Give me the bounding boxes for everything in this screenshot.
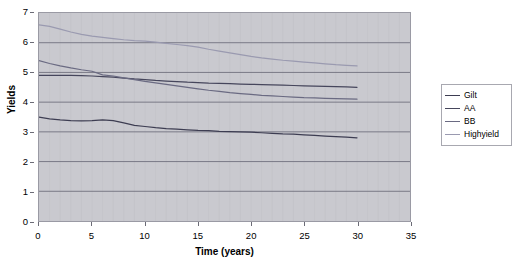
y-tick-mark bbox=[30, 102, 34, 103]
legend-line-swatch bbox=[445, 121, 460, 122]
legend-item-aa[interactable]: AA bbox=[445, 102, 508, 115]
x-tick-mark bbox=[251, 222, 252, 226]
x-tick-mark bbox=[304, 222, 305, 226]
legend-item-highyield[interactable]: Highyield bbox=[445, 128, 508, 141]
x-tick-label: 5 bbox=[89, 231, 94, 241]
plot-area bbox=[38, 12, 411, 222]
x-tick-mark bbox=[145, 222, 146, 226]
x-tick-label: 20 bbox=[246, 231, 257, 241]
y-tick-label: 1 bbox=[23, 187, 28, 197]
x-tick-mark bbox=[91, 222, 92, 226]
x-tick-label: 15 bbox=[193, 231, 204, 241]
x-tick-mark bbox=[198, 222, 199, 226]
y-tick-mark bbox=[30, 132, 34, 133]
y-tick-label: 2 bbox=[23, 157, 28, 167]
x-tick-label: 35 bbox=[406, 231, 417, 241]
legend-item-label: Highyield bbox=[464, 130, 499, 139]
plot-svg bbox=[39, 13, 410, 221]
y-tick-mark bbox=[30, 72, 34, 73]
legend-item-label: BB bbox=[464, 117, 475, 126]
legend-item-gilt[interactable]: Gilt bbox=[445, 89, 508, 102]
legend-line-swatch bbox=[445, 95, 460, 96]
legend-item-bb[interactable]: BB bbox=[445, 115, 508, 128]
y-tick-label: 7 bbox=[23, 7, 28, 17]
x-tick-mark bbox=[38, 222, 39, 226]
legend-line-swatch bbox=[445, 134, 460, 135]
yield-curve-chart: 76543210 Yields 05101520253035 Time (yea… bbox=[0, 0, 520, 273]
legend: GiltAABBHighyield bbox=[441, 84, 512, 146]
y-tick-label: 6 bbox=[23, 37, 28, 47]
y-axis-title: Yields bbox=[6, 70, 17, 130]
legend-line-swatch bbox=[445, 108, 460, 109]
y-tick-label: 5 bbox=[23, 67, 28, 77]
legend-item-label: Gilt bbox=[464, 91, 477, 100]
x-tick-label: 25 bbox=[299, 231, 310, 241]
y-tick-mark bbox=[30, 42, 34, 43]
x-axis-title: Time (years) bbox=[38, 246, 411, 257]
x-tick-mark bbox=[358, 222, 359, 226]
y-tick-mark bbox=[30, 192, 34, 193]
x-tick-mark bbox=[411, 222, 412, 226]
legend-item-label: AA bbox=[464, 104, 475, 113]
y-tick-label: 4 bbox=[23, 97, 28, 107]
y-tick-mark bbox=[30, 162, 34, 163]
x-tick-label: 0 bbox=[35, 231, 40, 241]
x-tick-label: 30 bbox=[352, 231, 363, 241]
y-tick-label: 3 bbox=[23, 127, 28, 137]
y-tick-mark bbox=[30, 12, 34, 13]
x-tick-label: 10 bbox=[139, 231, 150, 241]
